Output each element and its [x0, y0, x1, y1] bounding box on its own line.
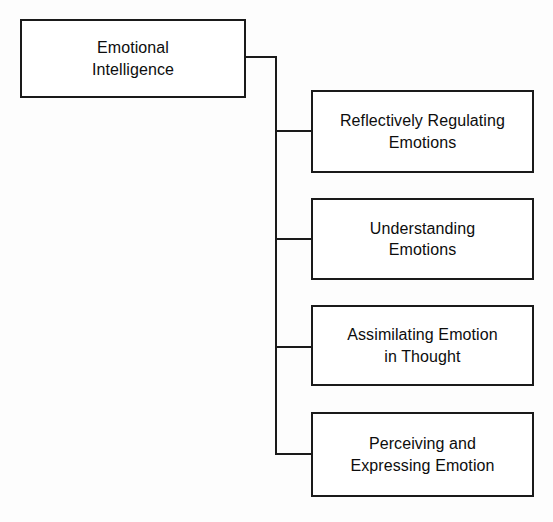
- node-perceiving-and-expressing-emotion-label: Perceiving and Expressing Emotion: [344, 433, 500, 475]
- node-understanding-emotions: Understanding Emotions: [311, 198, 534, 280]
- node-assimilating-emotion-in-thought-label: Assimilating Emotion in Thought: [341, 324, 504, 366]
- node-root-emotional-intelligence: Emotional Intelligence: [20, 19, 246, 98]
- node-perceiving-and-expressing-emotion: Perceiving and Expressing Emotion: [311, 412, 534, 497]
- node-reflectively-regulating-emotions: Reflectively Regulating Emotions: [311, 90, 534, 173]
- connector-branch-assimilating-emotion-in-thought: [275, 346, 312, 348]
- node-understanding-emotions-label: Understanding Emotions: [364, 218, 481, 260]
- node-root-label: Emotional Intelligence: [86, 37, 180, 79]
- connector-vertical-trunk: [275, 56, 277, 455]
- connector-branch-understanding-emotions: [275, 238, 312, 240]
- connector-root-stem: [246, 56, 277, 58]
- node-reflectively-regulating-emotions-label: Reflectively Regulating Emotions: [334, 110, 511, 152]
- node-assimilating-emotion-in-thought: Assimilating Emotion in Thought: [311, 305, 534, 386]
- diagram-canvas: Emotional Intelligence Reflectively Regu…: [0, 0, 553, 522]
- connector-branch-perceiving-and-expressing-emotion: [275, 453, 312, 455]
- connector-branch-reflectively-regulating-emotions: [275, 130, 312, 132]
